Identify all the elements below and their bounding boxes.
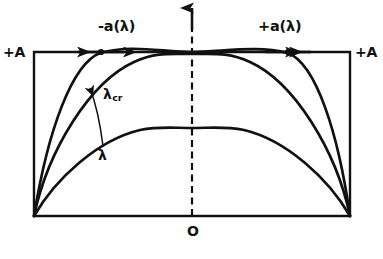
perturbation-negative-label: -a(λ) (98, 19, 135, 34)
lambda-label: λ (98, 148, 107, 162)
origin-label: O (187, 224, 199, 238)
lambda-critical-subscript: cr (112, 92, 122, 103)
lambda-critical-label: λcr (103, 87, 122, 101)
amplitude-label-left: +A (3, 45, 25, 59)
diagram-canvas (0, 0, 383, 259)
right-equilibrium-dot (285, 49, 291, 55)
left-equilibrium-dot (98, 49, 104, 55)
bifurcation-diagram: +A +A -a(λ) +a(λ) λcr λ O (0, 0, 383, 259)
perturbation-positive-label: +a(λ) (258, 19, 301, 34)
lambda-critical-symbol: λ (103, 86, 112, 102)
amplitude-label-right: +A (355, 45, 377, 59)
